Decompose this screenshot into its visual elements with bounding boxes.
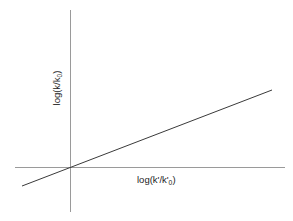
plot-figure: log(k'/k'0) log(k/k0) [0,0,293,221]
x-axis-label-suffix: ) [172,174,175,185]
plot-background [0,0,293,221]
x-axis-label-text: log(k'/k' [137,174,169,185]
y-axis-label: log(k/k0) [52,71,62,106]
x-axis-label: log(k'/k'0) [137,175,176,185]
plot-canvas [0,0,293,221]
y-axis-label-subscript: 0 [56,74,63,78]
x-axis-label-subscript: 0 [169,179,173,186]
y-axis-label-text: log(k/k [51,77,62,105]
